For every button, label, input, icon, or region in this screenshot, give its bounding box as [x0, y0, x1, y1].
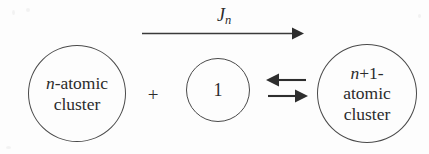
left-cluster-n-symbol: n: [46, 73, 55, 93]
plus-sign: +: [144, 84, 162, 106]
equilibrium-double-arrow: [264, 70, 310, 104]
scan-speckle: [26, 8, 30, 12]
scan-speckle: [418, 14, 421, 18]
right-cluster-circle: n+1- atomic cluster: [317, 44, 417, 143]
right-cluster-n-symbol: n: [350, 63, 359, 83]
right-cluster-line-2: atomic: [343, 83, 391, 103]
flux-arrow-label: Jn: [196, 2, 252, 28]
left-cluster-line-2: cluster: [54, 94, 101, 114]
right-cluster-line-1: n+1-: [350, 63, 383, 83]
scan-speckle: [6, 146, 11, 149]
left-cluster-line-1-rest: -atomic: [55, 73, 108, 93]
left-cluster-line-1: n-atomic: [46, 73, 108, 93]
monomer-circle: 1: [186, 58, 250, 122]
flux-label-base: J: [217, 5, 225, 25]
monomer-label: 1: [214, 80, 223, 101]
right-cluster-line-1-rest: +1-: [359, 63, 383, 83]
left-cluster-circle: n-atomic cluster: [28, 45, 126, 142]
scan-speckle: [12, 10, 15, 15]
flux-label-subscript: n: [225, 13, 231, 27]
right-cluster-line-3: cluster: [344, 104, 391, 124]
cluster-growth-diagram: Jn n-atomic cluster + 1 n+1- atomic clus…: [0, 0, 429, 154]
